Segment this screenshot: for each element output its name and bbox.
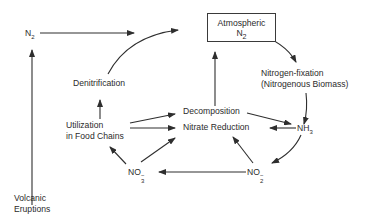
- no2-sub: 2: [260, 176, 263, 187]
- n2-source-sub: 2: [31, 34, 34, 40]
- arrow-no2-to-nitrate-reduction: [233, 137, 253, 163]
- volcanic-line2: Eruptions: [14, 204, 50, 215]
- n2-source-label: N2: [25, 28, 35, 39]
- denitrification-label: Denitrification: [73, 78, 125, 89]
- fixation-line1: Nitrogen-fixation: [261, 68, 348, 79]
- arrow-denitrification-to-atmospheric: [108, 30, 178, 74]
- no3-label: NO−3: [128, 167, 146, 178]
- atmospheric-line2: N2: [208, 28, 275, 41]
- nh3-sub: 3: [309, 129, 312, 135]
- decomposition-label: Decomposition: [183, 106, 240, 117]
- no2-formula: NO−2: [247, 167, 265, 178]
- arrow-fixation-to-nh3: [304, 93, 307, 124]
- arrow-no3-to-nitrate-reduction: [141, 138, 175, 162]
- nh3-label: NH3: [297, 123, 313, 134]
- no3-formula: NO−3: [128, 167, 146, 178]
- arrow-no3-to-utilization: [110, 147, 126, 164]
- no3-sub: 3: [141, 176, 144, 187]
- atmospheric-n2-box: Atmospheric N2: [207, 13, 276, 42]
- utilization-line2: in Food Chains: [66, 131, 124, 142]
- nitrogen-cycle-diagram: N2 Atmospheric N2 Nitrogen-fixation (Nit…: [0, 0, 369, 219]
- arrow-utilization-to-decomposition: [130, 114, 175, 123]
- atmospheric-line1: Atmospheric: [208, 18, 275, 28]
- no2-base: NO: [247, 167, 260, 177]
- no2-label: NO−2: [247, 167, 265, 178]
- nitrogen-fixation-label: Nitrogen-fixation (Nitrogenous Biomass): [261, 68, 348, 89]
- nh3-base: NH: [297, 123, 309, 133]
- volcanic-line1: Volcanic: [14, 193, 50, 204]
- utilization-line1: Utilization: [66, 120, 124, 131]
- utilization-label: Utilization in Food Chains: [66, 120, 124, 141]
- no3-base: NO: [128, 167, 141, 177]
- volcanic-eruptions-label: Volcanic Eruptions: [14, 193, 50, 214]
- nitrate-reduction-label: Nitrate Reduction: [183, 122, 249, 133]
- atmospheric-n-sub: 2: [243, 33, 247, 41]
- arrow-decomposition-to-nh3: [247, 113, 291, 124]
- fixation-line2: (Nitrogenous Biomass): [261, 79, 348, 90]
- arrow-nh3-to-no2: [272, 135, 301, 163]
